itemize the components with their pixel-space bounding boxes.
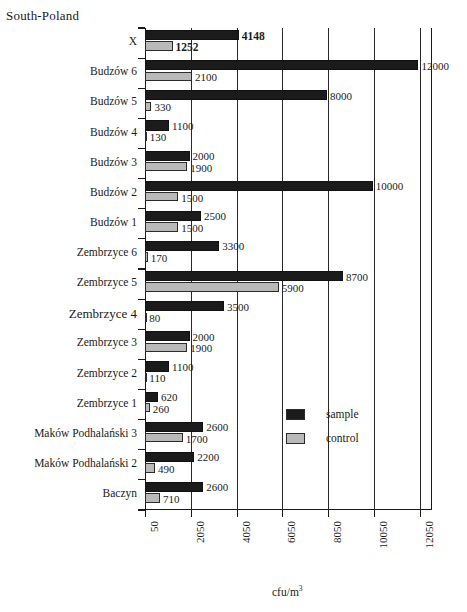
bar-value-control: 2100 [195, 72, 217, 83]
category-label: X [129, 36, 137, 48]
legend-label-sample: sample [326, 408, 359, 420]
legend-swatch-sample-icon [286, 409, 305, 420]
bar-sample [145, 120, 169, 130]
category-label: Zembrzyce 1 [77, 398, 137, 410]
category-tick [138, 148, 145, 149]
category-tick [138, 329, 145, 330]
x-tick-6050 [282, 510, 283, 517]
bar-value-sample: 1100 [172, 362, 194, 373]
bar-sample [145, 361, 169, 371]
category-tick [138, 88, 145, 89]
bar-control [145, 252, 148, 261]
bar-sample [145, 452, 194, 462]
bar-control [145, 463, 155, 472]
category-label: Baczyn [103, 488, 137, 500]
bar-value-control: 490 [158, 464, 175, 475]
x-tick-label-2050: 2050 [195, 521, 206, 543]
x-tick-label-10050: 10050 [378, 521, 389, 549]
bar-value-sample: 12000 [421, 61, 449, 72]
bar-control [145, 403, 150, 412]
category-label: Zembrzyce 3 [77, 338, 137, 350]
x-tick-label-50: 50 [149, 521, 160, 532]
category-label: Budzów 4 [90, 127, 137, 139]
bar-sample [145, 211, 201, 221]
category-tick [138, 419, 145, 420]
bar-sample [145, 392, 158, 402]
x-tick-label-8050: 8050 [332, 521, 343, 543]
category-tick [138, 238, 145, 239]
bar-control [145, 433, 183, 442]
legend-item-control: control [286, 430, 359, 446]
category-label: Maków Podhalański 2 [34, 458, 137, 470]
bar-control [145, 343, 187, 352]
bar-control [145, 132, 147, 141]
chart-row: Budzów 2100001500 [0, 179, 467, 207]
bar-value-sample: 2000 [193, 151, 215, 162]
category-tick [138, 389, 145, 390]
x-tick-10050 [374, 510, 375, 517]
bar-control [145, 192, 178, 201]
x-tick-4050 [237, 510, 238, 517]
bar-sample [145, 30, 239, 40]
bar-value-control: 130 [150, 132, 167, 143]
category-tick [138, 359, 145, 360]
category-tick [138, 118, 145, 119]
bar-value-sample: 10000 [376, 181, 404, 192]
category-label: Zembrzyce 6 [77, 247, 137, 259]
chart-row: Zembrzyce 4350080 [0, 299, 467, 327]
chart-row: Zembrzyce 587005900 [0, 269, 467, 297]
bar-sample [145, 151, 190, 161]
category-label: Budzów 6 [90, 67, 137, 79]
category-tick [138, 449, 145, 450]
bar-sample [145, 271, 343, 281]
bar-value-control: 110 [149, 373, 165, 384]
legend-label-control: control [326, 432, 359, 444]
chart-row: Zembrzyce 320001900 [0, 329, 467, 357]
category-tick [138, 479, 145, 480]
x-tick-50 [145, 510, 146, 517]
bar-control [145, 373, 147, 382]
category-rows: X41481252Budzów 6120002100Budzów 5800033… [0, 28, 467, 510]
x-axis-title-text: cfu/m [272, 586, 299, 598]
bar-control [145, 102, 151, 111]
category-label: Zembrzyce 2 [77, 368, 137, 380]
category-tick [138, 299, 145, 300]
category-label: Zembrzyce 4 [69, 307, 137, 320]
bar-control [145, 72, 192, 81]
category-tick [138, 27, 145, 28]
bar-control [145, 493, 160, 502]
chart-row: Budzów 58000330 [0, 88, 467, 116]
category-label: Budzów 5 [90, 97, 137, 109]
bar-control [145, 222, 178, 231]
bar-value-sample: 1100 [172, 121, 194, 132]
bar-sample [145, 422, 203, 432]
bar-value-sample: 2600 [206, 422, 228, 433]
legend-item-sample: sample [286, 406, 359, 422]
x-tick-label-12050: 12050 [424, 521, 435, 549]
chart-row: Budzów 41100130 [0, 118, 467, 146]
bar-value-control: 1252 [176, 42, 199, 54]
bar-control [145, 41, 173, 50]
bar-sample [145, 90, 327, 100]
category-label: Maków Podhalański 3 [34, 428, 137, 440]
chart-row: Baczyn2600710 [0, 480, 467, 508]
bar-value-control: 170 [151, 253, 168, 264]
chart-row: Zembrzyce 1620260 [0, 390, 467, 418]
bar-value-control: 330 [154, 102, 171, 113]
bar-value-control: 1500 [181, 223, 203, 234]
bar-value-sample: 4148 [242, 31, 265, 43]
bar-value-sample: 2600 [206, 482, 228, 493]
bar-sample [145, 241, 219, 251]
bar-value-control: 5900 [282, 283, 304, 294]
bar-value-control: 1500 [181, 193, 203, 204]
category-label: Budzów 3 [90, 157, 137, 169]
x-tick-label-6050: 6050 [286, 521, 297, 543]
chart-row: Maków Podhalański 326001700 [0, 420, 467, 448]
bar-value-control: 1700 [186, 434, 208, 445]
legend-swatch-control-icon [286, 433, 305, 444]
chart-row: Zembrzyce 21100110 [0, 359, 467, 387]
chart-row: Budzów 320001900 [0, 149, 467, 177]
bar-control [145, 282, 279, 291]
bar-value-sample: 3300 [222, 241, 244, 252]
bar-value-control: 260 [153, 404, 170, 415]
